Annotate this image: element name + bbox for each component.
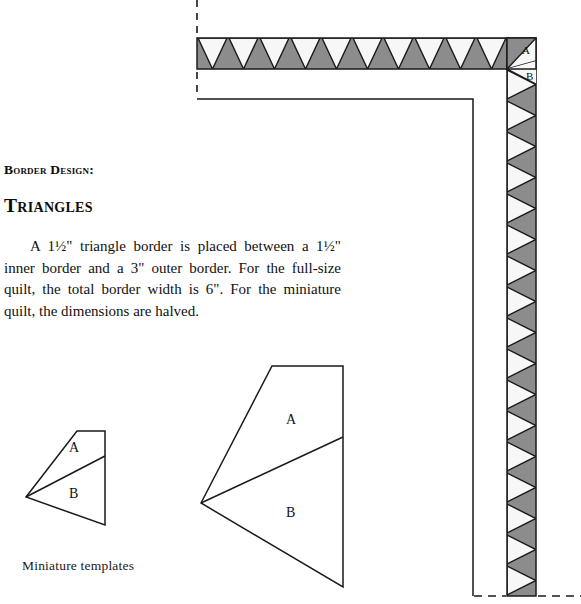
corner-wedge-b-white	[507, 61, 536, 84]
page-title: Triangles	[4, 196, 344, 216]
border-triangle	[507, 194, 536, 223]
corner-label-b: B	[526, 70, 533, 82]
border-triangle	[507, 70, 536, 99]
border-triangle	[507, 442, 536, 471]
miniature-label-b: B	[69, 486, 78, 501]
top-triangle-strip	[197, 38, 508, 69]
corner-detail: A B	[507, 38, 536, 84]
full-size-template-shape: A B	[201, 366, 343, 587]
corner-square-outline	[507, 38, 536, 69]
border-triangle	[446, 38, 475, 69]
full-size-label-b: B	[286, 505, 295, 520]
full-size-template-outline	[201, 366, 343, 587]
border-triangle	[507, 163, 536, 192]
top-strip-outline	[197, 38, 508, 69]
miniature-template-outline	[26, 431, 105, 525]
border-triangle	[229, 38, 258, 69]
miniature-template-shape: A B	[26, 431, 105, 525]
corner-diagonal-1	[507, 38, 536, 69]
border-triangle	[507, 473, 536, 502]
border-triangle	[507, 287, 536, 316]
border-triangle	[507, 349, 536, 378]
miniature-label-a: A	[69, 440, 80, 455]
text-block: Border Design: Triangles	[4, 163, 344, 217]
full-size-label-a: A	[286, 412, 297, 427]
border-triangle	[477, 38, 506, 69]
border-triangle	[507, 225, 536, 254]
border-triangle	[198, 38, 227, 69]
corner-label-a: A	[522, 44, 530, 56]
right-triangle-strip	[507, 38, 536, 596]
body-paragraph: A 1½" triangle border is placed between …	[4, 236, 341, 322]
top-strip-background	[197, 38, 508, 69]
border-triangle	[322, 38, 351, 69]
border-triangle	[507, 256, 536, 285]
border-triangle	[507, 132, 536, 161]
full-size-template-divider	[201, 437, 343, 503]
border-triangle	[384, 38, 413, 69]
border-triangle	[507, 318, 536, 347]
border-triangle	[507, 380, 536, 409]
corner-wedge-a-white	[507, 38, 536, 69]
miniature-template-divider	[26, 456, 105, 497]
border-triangle	[507, 101, 536, 130]
border-triangle	[507, 411, 536, 440]
border-triangle	[415, 38, 444, 69]
right-white-triangles	[507, 70, 536, 595]
page-canvas: A B Border Design: Triangles A 1½" trian…	[0, 0, 581, 604]
border-triangle	[507, 535, 536, 564]
border-triangle	[507, 504, 536, 533]
corner-square-background	[507, 38, 536, 69]
border-triangle	[291, 38, 320, 69]
right-strip-background	[507, 38, 536, 596]
border-triangle	[353, 38, 382, 69]
border-triangle	[507, 566, 536, 595]
right-strip-outline	[507, 38, 536, 596]
corner-diagonal-2	[507, 61, 536, 69]
corner-diagonal-3	[507, 69, 536, 84]
caption-miniature-templates: Miniature templates	[22, 558, 134, 574]
corner-wedge-a-fill	[507, 38, 536, 69]
border-triangle	[260, 38, 289, 69]
page-subtitle: Border Design:	[4, 163, 344, 177]
top-white-triangles	[198, 38, 506, 69]
